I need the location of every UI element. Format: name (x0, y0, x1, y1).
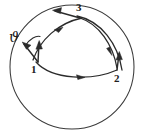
point-label-2: 2 (114, 73, 120, 84)
geodesic-path-1-3 (33, 18, 82, 60)
geodesic-path-3-2-inner (80, 18, 117, 68)
sphere-outline-group (10, 5, 134, 129)
arrowhead-arc-1-2 (77, 75, 86, 80)
geodesic-arc-1-3 (33, 18, 82, 60)
tangent-vector-at-1-returned (22, 42, 38, 62)
geodesic-arc-3-2-inner (80, 18, 117, 68)
point-label-3: 3 (76, 2, 82, 13)
point-label-1: 1 (31, 64, 37, 75)
angle-label-theta: ϑ (9, 30, 19, 44)
parallel-transport-figure: ϑ 1 2 3 (0, 0, 145, 137)
vector-arrowhead-at-3 (53, 8, 62, 14)
figure-canvas (0, 0, 145, 137)
sphere-outline (10, 5, 134, 129)
geodesic-arc-1-2 (36, 62, 117, 80)
